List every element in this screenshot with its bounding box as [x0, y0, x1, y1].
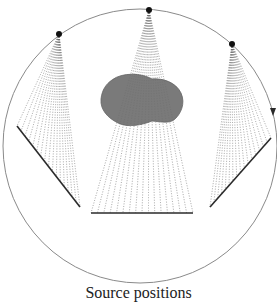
ray — [232, 44, 263, 147]
ray — [232, 44, 260, 151]
ray — [45, 34, 59, 161]
ray — [232, 44, 252, 160]
ray — [148, 10, 149, 213]
detector-right — [210, 138, 271, 207]
scanned-object — [101, 74, 183, 125]
source-right — [229, 41, 235, 47]
ray — [225, 44, 232, 190]
ray — [41, 34, 59, 156]
ray — [59, 34, 68, 192]
source-top — [146, 7, 152, 13]
ray — [45, 34, 59, 161]
ray — [214, 44, 232, 203]
ray — [59, 34, 72, 197]
ray — [232, 44, 241, 173]
ray — [210, 44, 232, 207]
ray — [232, 44, 233, 181]
ray — [218, 44, 232, 198]
ray — [232, 44, 237, 177]
ray — [221, 44, 232, 194]
ray — [232, 44, 248, 164]
ray — [25, 34, 59, 136]
ray — [218, 44, 232, 198]
ray — [59, 34, 60, 182]
source-left — [56, 31, 62, 37]
detector-left — [17, 126, 80, 207]
ray — [232, 44, 256, 155]
caption-source-positions: Source positions — [0, 283, 277, 303]
ray — [21, 34, 59, 131]
rotation-direction-arrow-icon — [270, 108, 276, 116]
ray — [210, 44, 232, 207]
ray — [232, 44, 237, 177]
